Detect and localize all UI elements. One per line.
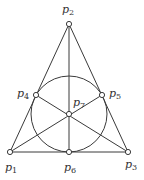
point-p6	[66, 149, 71, 154]
line-p1-p5	[10, 95, 102, 152]
point-p7	[66, 111, 71, 116]
line-p2-p3	[69, 24, 128, 152]
label-p4: p4	[17, 87, 29, 101]
label-p7: p7	[73, 96, 85, 110]
label-p1: p1	[5, 161, 17, 175]
point-p4	[33, 92, 38, 97]
label-p6: p6	[64, 161, 76, 175]
label-p2: p2	[62, 3, 74, 17]
fano-plane-diagram: p1p2p3p4p5p6p7	[0, 0, 144, 180]
label-p5: p5	[109, 87, 121, 101]
point-p2	[66, 21, 71, 26]
point-p5	[99, 92, 104, 97]
point-p3	[125, 149, 130, 154]
label-p3: p3	[125, 158, 137, 172]
point-p1	[7, 149, 12, 154]
